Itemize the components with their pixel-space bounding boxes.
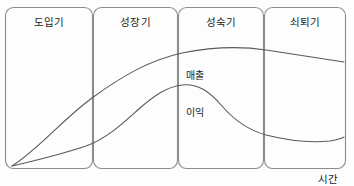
stage-label-decline: 쇠퇴기 bbox=[264, 14, 346, 29]
x-axis-label: 시간 bbox=[318, 171, 339, 186]
profit-curve-label: 이익 bbox=[186, 104, 205, 119]
stage-label-growth: 성장기 bbox=[93, 14, 178, 29]
stage-label-introduction: 도입기 bbox=[5, 14, 93, 29]
stage-box-group bbox=[6, 8, 346, 169]
stage-box-maturity bbox=[179, 8, 264, 169]
sales-curve-label: 매출 bbox=[186, 67, 205, 82]
stage-box-introduction bbox=[6, 8, 93, 169]
product-life-cycle-figure: 도입기 성장기 성숙기 쇠퇴기 매출 이익 시간 bbox=[0, 0, 354, 186]
stage-box-decline bbox=[265, 8, 346, 169]
stage-label-maturity: 성숙기 bbox=[178, 14, 264, 29]
